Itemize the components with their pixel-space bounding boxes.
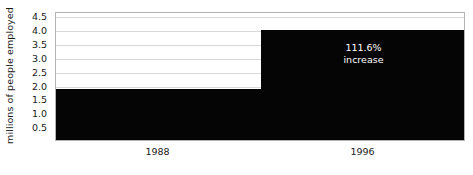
bar-annotation: 111.6%increase xyxy=(261,42,465,66)
y-axis-tick-labels: 0.51.01.52.02.53.03.54.04.5 xyxy=(18,12,51,141)
y-axis-tick-label: 4.0 xyxy=(32,25,47,36)
y-axis-tick-label: 3.0 xyxy=(32,52,47,63)
y-axis-tick-label: 4.5 xyxy=(32,11,47,22)
y-axis-tick-label: 2.5 xyxy=(32,66,47,77)
bar-annotation-line-2: increase xyxy=(261,54,465,66)
plot-area: 111.6%increase xyxy=(55,12,465,141)
x-axis-tick-labels: 19881996 xyxy=(55,146,465,166)
y-axis-tick-label: 1.5 xyxy=(32,94,47,105)
y-axis-tick-label: 2.0 xyxy=(32,80,47,91)
bar xyxy=(56,89,261,141)
gridline xyxy=(56,17,464,18)
y-axis-tick-label: 0.5 xyxy=(32,122,47,133)
bar-annotation-line-1: 111.6% xyxy=(261,42,465,54)
y-axis-title-text: millions of people employed xyxy=(4,7,15,144)
bar-chart-figure: millions of people employed 0.51.01.52.0… xyxy=(0,0,473,175)
x-axis-tick-label: 1996 xyxy=(350,146,374,157)
y-axis-tick-label: 3.5 xyxy=(32,38,47,49)
y-axis-tick-label: 1.0 xyxy=(32,108,47,119)
y-axis-title: millions of people employed xyxy=(0,0,18,150)
x-axis-tick-label: 1988 xyxy=(145,146,169,157)
